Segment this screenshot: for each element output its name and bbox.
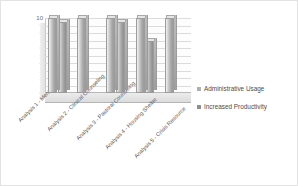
bar-side [115,15,118,90]
bar-face [48,18,57,93]
y-axis-tick-label: 10 [36,15,43,21]
chart-legend: Administrative UsageIncreased Productivi… [197,85,297,121]
legend-item-label: Administrative Usage [204,85,264,92]
chart-container: 109876543210 Analysis 1 - MentoringAnaly… [0,0,298,186]
bar-top [78,15,87,18]
bar-side [145,15,148,90]
bar-top [137,15,146,18]
bar-side [174,15,177,90]
bar-face [136,18,145,93]
bar-face [106,18,115,93]
bar-top [166,15,175,18]
bar-side [57,15,60,90]
legend-swatch-icon [197,105,201,109]
x-axis-category-labels: Analysis 1 - MentoringAnalysis 2 - Clini… [1,93,201,163]
bar-face [77,18,86,93]
bar-side [86,15,89,90]
legend-item-label: Increased Productivity [204,103,267,110]
bar-group [48,18,77,93]
legend-swatch-icon [197,87,201,91]
bar[interactable] [77,18,86,93]
bar[interactable] [136,18,145,93]
bar-group [165,18,194,93]
bar-side [154,38,157,91]
bar-top [49,15,58,18]
bar-side [67,19,70,90]
legend-item[interactable]: Increased Productivity [197,103,297,110]
bar[interactable] [106,18,115,93]
bar-top [107,15,116,18]
legend-item[interactable]: Administrative Usage [197,85,297,92]
bar[interactable] [165,18,174,93]
plot-area [45,18,191,93]
bar-group [136,18,165,93]
chart-left-depth-wall [40,23,45,98]
bar-face [165,18,174,93]
bar[interactable] [48,18,57,93]
bar-side [125,19,128,90]
